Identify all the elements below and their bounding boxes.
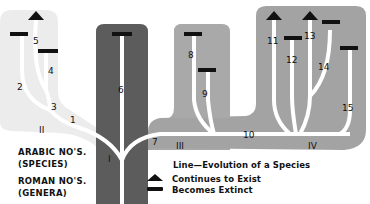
species-label-12: 12	[286, 56, 297, 65]
extinct-legend-icon	[147, 187, 163, 191]
species-label-1: 1	[70, 116, 76, 125]
species-label-13: 13	[304, 32, 315, 41]
legend-line: Line—Evolution of a Species	[173, 160, 310, 170]
legend-extinct: Becomes Extinct	[172, 185, 253, 195]
evolution-diagram: 1 2 3 4 5 6 7 8 9 10 11 12 13 14 15 I II…	[0, 0, 370, 204]
genus-label-II: II	[39, 126, 44, 135]
species-label-11: 11	[267, 37, 278, 46]
species-label-6: 6	[118, 86, 124, 95]
species-label-3: 3	[51, 103, 57, 112]
species-label-7: 7	[152, 138, 158, 147]
species-label-2: 2	[17, 83, 23, 92]
species-label-15: 15	[342, 104, 353, 113]
continues-markers	[28, 11, 318, 20]
legend-continues: Continues to Exist	[172, 174, 261, 184]
species-label-14: 14	[318, 63, 329, 72]
species-label-10: 10	[243, 131, 254, 140]
arabic-numerals-key: ARABIC NO'S. (SPECIES)	[18, 146, 86, 170]
genus-label-I: I	[108, 155, 111, 164]
species-label-8: 8	[188, 51, 194, 60]
species-label-4: 4	[48, 67, 54, 76]
continues-legend-icon	[147, 174, 163, 181]
roman-numerals-key: ROMAN NO'S. (GENERA)	[18, 175, 86, 199]
species-label-9: 9	[202, 90, 208, 99]
genus-label-IV: IV	[308, 142, 317, 151]
genus-label-III: III	[176, 142, 184, 151]
species-label-5: 5	[33, 37, 39, 46]
